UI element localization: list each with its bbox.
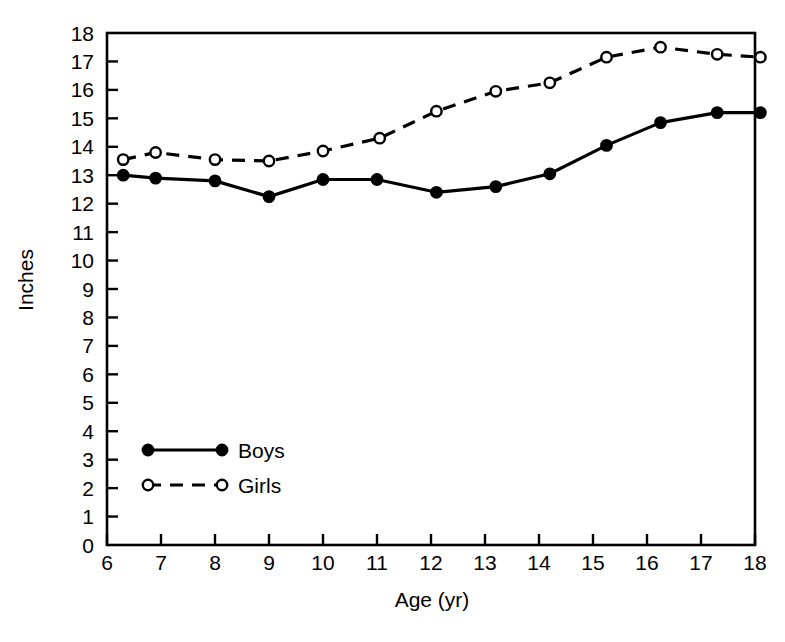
y-tick-label: 14 bbox=[71, 135, 95, 158]
legend-label: Girls bbox=[238, 474, 281, 497]
legend-label: Boys bbox=[238, 439, 285, 462]
legend-marker bbox=[217, 480, 227, 490]
data-point bbox=[431, 106, 441, 116]
data-point bbox=[544, 168, 555, 179]
data-point bbox=[431, 187, 442, 198]
data-point bbox=[545, 78, 555, 88]
x-tick-label: 14 bbox=[527, 551, 551, 574]
data-point bbox=[264, 156, 274, 166]
y-tick-label: 10 bbox=[71, 249, 94, 272]
y-tick-label: 9 bbox=[82, 278, 94, 301]
data-point bbox=[210, 154, 220, 164]
y-tick-label: 8 bbox=[82, 306, 94, 329]
y-tick-label: 12 bbox=[71, 192, 94, 215]
y-tick-label: 15 bbox=[71, 107, 94, 130]
data-point bbox=[712, 49, 722, 59]
data-point bbox=[264, 191, 275, 202]
legend-marker bbox=[143, 480, 153, 490]
x-tick-label: 11 bbox=[366, 551, 388, 574]
chart-figure: 0123456789101112131415161718 67891011121… bbox=[0, 0, 785, 642]
data-point bbox=[712, 107, 723, 118]
x-tick-label: 10 bbox=[311, 551, 334, 574]
data-point bbox=[210, 176, 221, 187]
y-tick-label: 11 bbox=[72, 221, 94, 244]
x-tick-label: 9 bbox=[263, 551, 275, 574]
y-tick-label: 7 bbox=[82, 334, 94, 357]
y-tick-label: 1 bbox=[82, 505, 94, 528]
data-point bbox=[372, 174, 383, 185]
y-axis-title: Inches bbox=[14, 249, 37, 311]
data-point bbox=[150, 147, 160, 157]
y-tick-label: 5 bbox=[82, 391, 94, 414]
x-tick-label: 8 bbox=[209, 551, 221, 574]
x-tick-label: 17 bbox=[689, 551, 712, 574]
x-tick-label: 7 bbox=[155, 551, 167, 574]
data-point bbox=[118, 170, 129, 181]
data-point bbox=[755, 107, 766, 118]
y-tick-label: 16 bbox=[71, 78, 94, 101]
data-point bbox=[601, 140, 612, 151]
data-point bbox=[375, 133, 385, 143]
x-axis-title: Age (yr) bbox=[395, 588, 470, 611]
data-point bbox=[318, 146, 328, 156]
y-tick-label: 18 bbox=[71, 22, 94, 45]
data-point bbox=[118, 154, 128, 164]
data-point bbox=[150, 173, 161, 184]
y-tick-label: 6 bbox=[82, 363, 94, 386]
x-tick-label: 13 bbox=[473, 551, 496, 574]
x-tick-label: 18 bbox=[743, 551, 766, 574]
y-tick-label: 0 bbox=[82, 534, 94, 557]
legend-marker bbox=[143, 445, 154, 456]
data-point bbox=[601, 52, 611, 62]
data-point bbox=[655, 117, 666, 128]
legend-marker bbox=[217, 445, 228, 456]
data-point bbox=[655, 42, 665, 52]
x-tick-label: 16 bbox=[635, 551, 658, 574]
y-tick-label: 4 bbox=[82, 420, 94, 443]
data-point bbox=[318, 174, 329, 185]
y-tick-label: 17 bbox=[71, 50, 94, 73]
growth-line-chart: 0123456789101112131415161718 67891011121… bbox=[0, 0, 785, 642]
data-point bbox=[490, 181, 501, 192]
data-point bbox=[491, 86, 501, 96]
y-tick-label: 13 bbox=[71, 164, 94, 187]
x-tick-label: 15 bbox=[581, 551, 604, 574]
y-tick-label: 2 bbox=[82, 477, 94, 500]
y-tick-label: 3 bbox=[82, 448, 94, 471]
x-tick-label: 6 bbox=[101, 551, 113, 574]
x-tick-label: 12 bbox=[419, 551, 442, 574]
data-point bbox=[755, 52, 765, 62]
